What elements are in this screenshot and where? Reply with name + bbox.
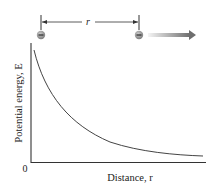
- distance-label: r: [86, 16, 90, 27]
- charge-left: [37, 31, 45, 39]
- motion-arrow-icon: [148, 30, 196, 40]
- charge-right: [135, 31, 143, 39]
- distance-indicator: [41, 15, 139, 30]
- y-axis-label: Potential energy, E: [13, 63, 24, 142]
- potential-energy-curve: [34, 50, 203, 156]
- origin-label: 0: [23, 163, 28, 174]
- x-axis-label: Distance, r: [107, 172, 153, 183]
- coulomb-diagram: r 0 Distance, r Potential energy, E: [0, 0, 221, 193]
